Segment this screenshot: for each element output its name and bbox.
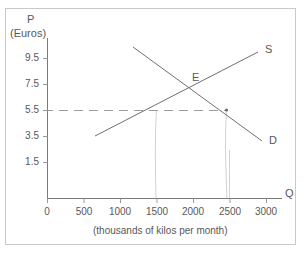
supply-curve xyxy=(95,52,258,136)
demand-curve-label: D xyxy=(269,135,277,146)
x-axis-symbol: Q xyxy=(285,188,294,199)
x-tick-label-3000: 3000 xyxy=(249,207,283,217)
equilibrium-point-label: E xyxy=(192,72,199,83)
dropline-quantity-supplied xyxy=(155,110,156,198)
y-axis-unit: (Euros) xyxy=(10,28,46,39)
y-tick-label-3-5: 3.5 xyxy=(15,131,39,141)
supply-demand-figure: P (Euros) 9.5 7.5 5.5 3.5 1.5 0 500 1000… xyxy=(0,0,304,256)
x-tick-label-500: 500 xyxy=(67,207,101,217)
x-tick-label-1500: 1500 xyxy=(140,207,174,217)
x-tick-label-2000: 2000 xyxy=(176,207,210,217)
y-tick-label-5-5: 5.5 xyxy=(15,105,39,115)
x-tick-label-0: 0 xyxy=(30,207,64,217)
y-tick-label-9-5: 9.5 xyxy=(15,53,39,63)
supply-curve-label: S xyxy=(265,44,272,55)
y-tick-label-7-5: 7.5 xyxy=(15,79,39,89)
demand-curve xyxy=(133,47,262,141)
dropline-quantity-demanded xyxy=(226,110,227,198)
y-axis-symbol: P xyxy=(27,14,34,25)
x-tick-label-1000: 1000 xyxy=(103,207,137,217)
x-tick-label-2500: 2500 xyxy=(213,207,247,217)
x-axis-caption: (thousands of kilos per month) xyxy=(93,226,228,236)
y-tick-label-1-5: 1.5 xyxy=(15,157,39,167)
point-quantity-demanded xyxy=(225,108,228,111)
